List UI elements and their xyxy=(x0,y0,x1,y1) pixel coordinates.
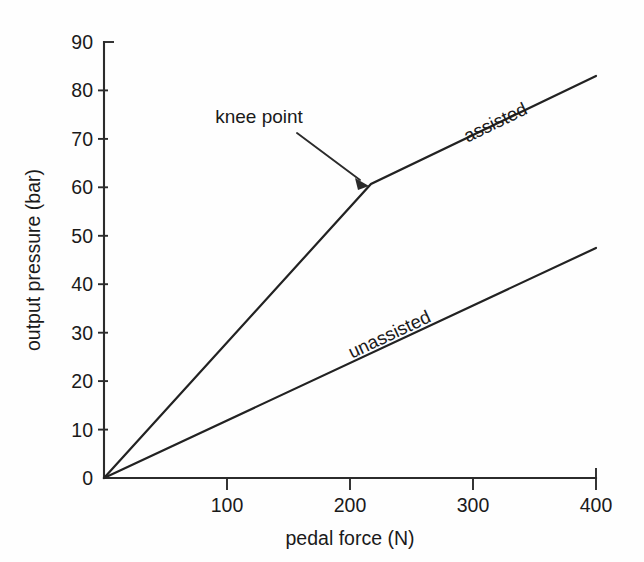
y-tick-label-90: 90 xyxy=(71,31,93,53)
y-tick-label-70: 70 xyxy=(71,128,93,150)
y-tick-label-0: 0 xyxy=(82,467,93,489)
knee-point-label: knee point xyxy=(215,106,303,127)
y-tick-labels: 90 80 70 60 50 40 30 20 10 0 xyxy=(71,31,93,489)
x-tick-label-100: 100 xyxy=(211,494,244,516)
knee-point-annotation: knee point xyxy=(215,106,369,190)
unassisted-series-label: unassisted xyxy=(345,306,434,363)
knee-point-arrow-shaft xyxy=(297,133,360,180)
y-tick-label-40: 40 xyxy=(71,273,93,295)
y-axis-title: output pressure (bar) xyxy=(22,169,44,351)
unassisted-series-line xyxy=(104,248,596,478)
y-axis xyxy=(104,42,114,478)
y-tick-label-20: 20 xyxy=(71,370,93,392)
x-tick-label-300: 300 xyxy=(457,494,490,516)
assisted-series-line xyxy=(104,76,596,478)
y-tick-label-30: 30 xyxy=(71,322,93,344)
y-tick-label-80: 80 xyxy=(71,79,93,101)
x-tick-label-400: 400 xyxy=(580,494,613,516)
x-axis xyxy=(104,468,596,478)
y-tick-label-50: 50 xyxy=(71,225,93,247)
x-tick-labels: 100 200 300 400 xyxy=(211,494,613,516)
chart-page: 90 80 70 60 50 40 30 20 10 0 100 200 300… xyxy=(0,0,644,562)
pedal-force-pressure-chart: 90 80 70 60 50 40 30 20 10 0 100 200 300… xyxy=(0,0,644,562)
x-tick-label-200: 200 xyxy=(334,494,367,516)
y-tick-label-10: 10 xyxy=(71,419,93,441)
x-tick-marks xyxy=(227,478,596,490)
y-tick-label-60: 60 xyxy=(71,176,93,198)
assisted-series-label: assisted xyxy=(460,98,530,146)
x-axis-title: pedal force (N) xyxy=(286,527,415,549)
